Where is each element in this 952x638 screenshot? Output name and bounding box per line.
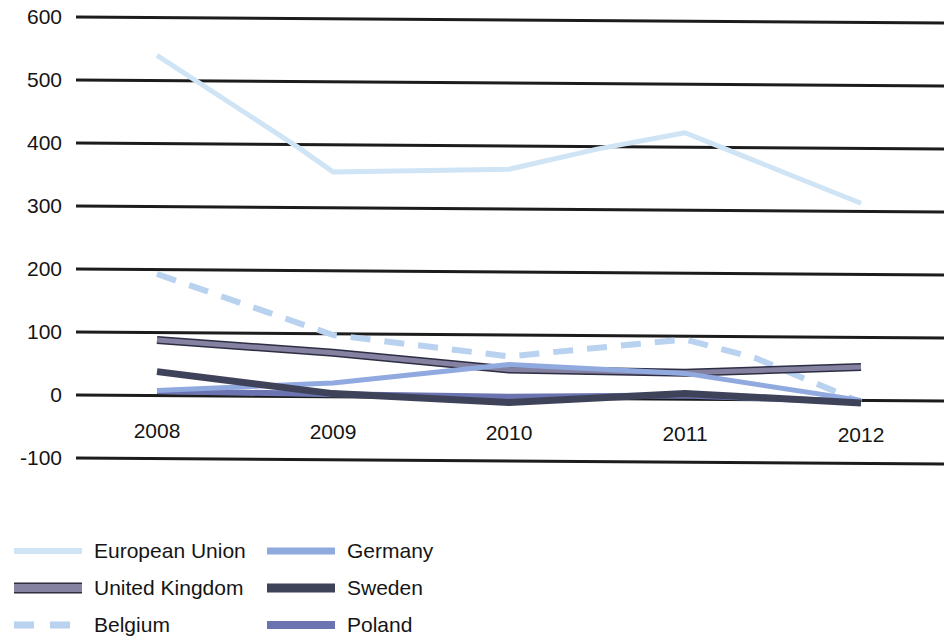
legend-item[interactable]: United Kingdom: [12, 573, 243, 603]
gridline: [76, 458, 944, 464]
legend-label: Germany: [347, 539, 433, 563]
legend-swatch-icon: [12, 573, 84, 603]
x-axis-tick-label: 2011: [645, 423, 725, 444]
y-axis-tick-label: 600: [0, 6, 62, 27]
legend-label: United Kingdom: [94, 576, 243, 600]
legend-item[interactable]: Poland: [265, 610, 412, 638]
line-chart: 6005004003002001000-100 2008200920102011…: [0, 0, 952, 638]
legend-item[interactable]: Sweden: [265, 573, 423, 603]
legend-swatch-icon: [265, 536, 337, 566]
x-axis-tick-label: 2012: [821, 424, 901, 445]
x-axis-tick-label: 2009: [293, 421, 373, 442]
legend-label: European Union: [94, 539, 246, 563]
x-axis-tick-label: 2010: [469, 422, 549, 443]
y-axis-tick-label: -100: [0, 447, 62, 468]
y-axis-tick-label: 300: [0, 195, 62, 216]
series-line-european-union: [157, 55, 861, 203]
legend-label: Belgium: [94, 613, 170, 637]
gridline: [76, 143, 944, 149]
gridline: [76, 332, 944, 338]
legend-item[interactable]: European Union: [12, 536, 246, 566]
gridline: [76, 206, 944, 212]
legend-swatch-icon: [12, 536, 84, 566]
y-axis-tick-label: 100: [0, 321, 62, 342]
series-lines: [157, 55, 861, 403]
legend-label: Sweden: [347, 576, 423, 600]
y-axis-tick-label: 500: [0, 69, 62, 90]
chart-legend: European UnionGermanyUnited KingdomSwede…: [0, 522, 952, 638]
legend-item[interactable]: Belgium: [12, 610, 170, 638]
legend-swatch-icon: [265, 610, 337, 638]
legend-item[interactable]: Germany: [265, 536, 433, 566]
y-axis-tick-label: 400: [0, 132, 62, 153]
legend-label: Poland: [347, 613, 412, 637]
y-axis-tick-label: 0: [0, 384, 62, 405]
x-axis-tick-label: 2008: [117, 420, 197, 441]
gridline: [76, 17, 944, 23]
gridline: [76, 269, 944, 275]
legend-swatch-icon: [265, 573, 337, 603]
y-axis-tick-label: 200: [0, 258, 62, 279]
legend-swatch-icon: [12, 610, 84, 638]
